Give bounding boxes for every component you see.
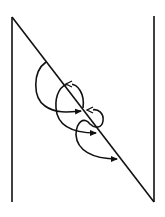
curved-arrow-1 xyxy=(36,62,81,112)
open-arrowhead-3 xyxy=(87,107,93,113)
loop-arrow-3 xyxy=(76,110,117,159)
diagonal-line xyxy=(12,17,154,202)
loop-diagram xyxy=(0,0,165,217)
open-arrowhead-2 xyxy=(66,81,72,87)
